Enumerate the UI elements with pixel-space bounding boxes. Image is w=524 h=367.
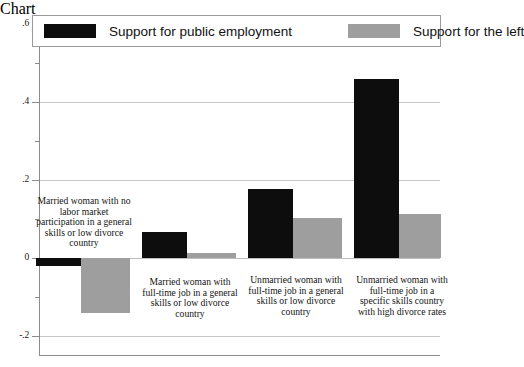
legend-swatch-black — [44, 24, 96, 38]
bar — [399, 214, 441, 258]
bar — [248, 189, 293, 258]
legend-item-support-for-the-left: Support for the left — [348, 24, 524, 39]
bar — [36, 258, 81, 266]
legend-label: Support for the left — [413, 24, 524, 39]
bar — [293, 218, 342, 258]
chart-legend: Support for public employment Support fo… — [32, 15, 441, 47]
category-label: Married woman with full-time job in a ge… — [142, 277, 238, 319]
bar — [142, 232, 187, 258]
bar — [354, 79, 399, 258]
bar — [81, 258, 130, 313]
legend-label: Support for public employment — [109, 24, 292, 39]
category-label: Married woman with no labor market parti… — [36, 196, 132, 249]
legend-swatch-gray — [348, 24, 400, 38]
category-label: Unmarried woman with full-time job in a … — [354, 275, 450, 317]
bar — [187, 253, 236, 258]
legend-item-support-for-public-employment: Support for public employment — [44, 24, 292, 39]
category-label: Unmarried woman with full-time job in a … — [248, 275, 344, 317]
